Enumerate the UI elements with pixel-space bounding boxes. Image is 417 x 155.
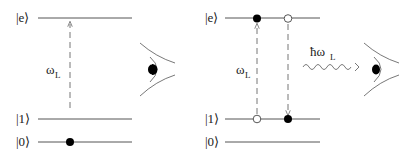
- omega-subscript: L: [245, 70, 251, 80]
- omega-subscript: L: [55, 70, 61, 80]
- eye-icon: [364, 43, 399, 96]
- level-label-1: |1⟩: [205, 111, 219, 126]
- eye-icon: [140, 43, 175, 96]
- photon-energy-subscript: L: [330, 52, 336, 62]
- particle-filled: [66, 138, 74, 146]
- photon-arrowhead-icon: [355, 63, 359, 71]
- photon-wave-icon: [303, 65, 351, 70]
- level-label-e: |e⟩: [16, 10, 29, 25]
- particle-filled: [284, 115, 292, 123]
- level-label-1: |1⟩: [16, 111, 30, 126]
- particle-empty: [253, 115, 261, 123]
- particle-filled: [253, 15, 261, 23]
- left-panel: |e⟩ |1⟩ |0⟩ ω L: [16, 10, 175, 149]
- photon-energy-label: ħω: [310, 44, 326, 59]
- level-label-0: |0⟩: [16, 134, 30, 149]
- right-panel: |e⟩ |1⟩ |0⟩ ω L ħω L: [205, 10, 399, 149]
- omega-label: ω: [46, 62, 55, 77]
- energy-level-diagram: |e⟩ |1⟩ |0⟩ ω L |e⟩ |1⟩ |0⟩ ω L: [0, 0, 417, 155]
- level-label-e: |e⟩: [205, 10, 218, 25]
- omega-label: ω: [236, 62, 245, 77]
- particle-empty: [284, 15, 292, 23]
- level-label-0: |0⟩: [205, 134, 219, 149]
